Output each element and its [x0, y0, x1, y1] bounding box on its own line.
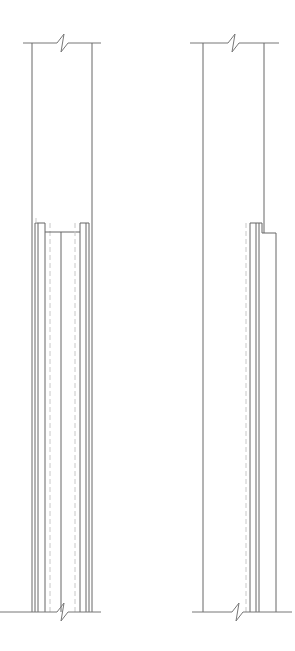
right-detail	[190, 34, 292, 621]
bottom-break-line	[192, 603, 292, 621]
top-break-line	[23, 34, 101, 52]
left-cladding	[32, 218, 50, 612]
cladding	[246, 223, 276, 612]
drawing-canvas	[0, 0, 295, 651]
right-cladding	[75, 221, 92, 612]
left-detail	[0, 34, 101, 621]
